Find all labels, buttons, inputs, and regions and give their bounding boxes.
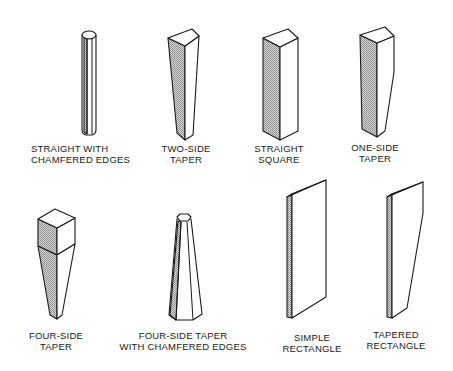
label-line: RECTANGLE [272,343,352,354]
label-one-side-taper: ONE-SIDE TAPER [345,142,405,164]
simple-rectangle-leg-drawing [287,180,326,318]
label-tapered-rectangle: TAPERED RECTANGLE [356,329,436,351]
label-four-side-taper-chamfered: FOUR-SIDE TAPER WITH CHAMFERED EDGES [113,330,253,352]
label-line: TAPER [26,341,86,352]
label-line: ONE-SIDE [345,142,405,153]
tapered-rectangle-leg-drawing [387,182,423,318]
label-line: STRAIGHT [249,143,309,154]
straight-chamfered-leg-drawing [82,31,96,135]
four-side-taper-chamfered-leg-drawing [169,214,202,320]
label-two-side-taper: TWO-SIDE TAPER [156,143,216,165]
label-line: CHAMFERED EDGES [31,154,130,165]
label-line: FOUR-SIDE [26,330,86,341]
straight-square-leg-drawing [263,29,298,140]
label-line: STRAIGHT WITH [31,143,130,154]
label-line: TAPER [156,154,216,165]
label-line: TAPERED [356,329,436,340]
label-line: FOUR-SIDE TAPER [113,330,253,341]
label-line: WITH CHAMFERED EDGES [113,341,253,352]
label-line: TWO-SIDE [156,143,216,154]
two-side-taper-leg-drawing [168,29,199,140]
label-straight-chamfered: STRAIGHT WITH CHAMFERED EDGES [31,143,130,165]
label-line: RECTANGLE [356,340,436,351]
one-side-taper-leg-drawing [360,27,394,137]
label-simple-rectangle: SIMPLE RECTANGLE [272,332,352,354]
label-four-side-taper: FOUR-SIDE TAPER [26,330,86,352]
four-side-taper-leg-drawing [38,209,75,319]
label-straight-square: STRAIGHT SQUARE [249,143,309,165]
leg-shapes-diagram [0,0,453,371]
label-line: SQUARE [249,154,309,165]
label-line: TAPER [345,153,405,164]
label-line: SIMPLE [272,332,352,343]
